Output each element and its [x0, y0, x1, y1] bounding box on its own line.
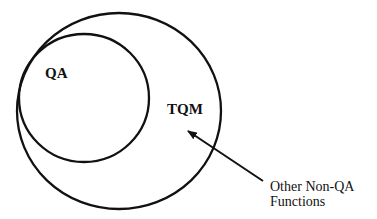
qa-label: QA: [45, 65, 68, 81]
annotation-line-2: Functions: [270, 194, 325, 209]
annotation-line-1: Other Non-QA: [270, 179, 355, 194]
pointer-arrow: [188, 131, 263, 181]
venn-diagram: QA TQM Other Non-QA Functions: [0, 0, 377, 219]
tqm-label: TQM: [167, 101, 203, 117]
qa-inner-circle: [19, 34, 149, 162]
